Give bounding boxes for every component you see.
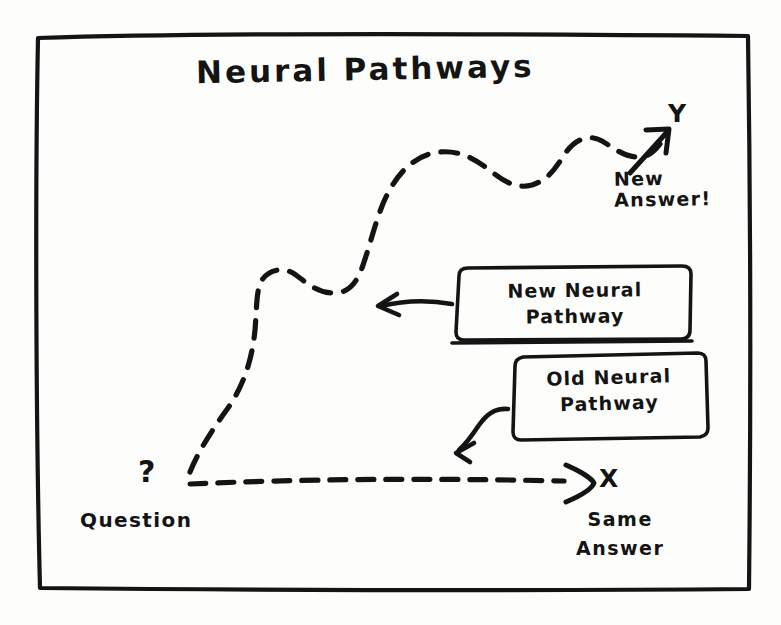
new-pathway-box-underline: [452, 341, 692, 343]
same-answer-line-2: Answer: [576, 534, 664, 563]
old-pathway-line-2: Pathway: [523, 388, 696, 418]
new-pathway-callout-arrow: [381, 301, 452, 306]
old-pathway-line-1: Old Neural: [522, 363, 695, 393]
page-title: Neural Pathways: [196, 49, 535, 90]
old-pathway-callout-arrowhead: [456, 443, 474, 462]
same-answer-caption: Same Answer: [576, 505, 664, 564]
question-label: Question: [80, 509, 192, 531]
new-answer-line-2: Answer!: [614, 188, 711, 211]
old-pathway-arrowhead: [566, 465, 594, 502]
same-answer-line-1: Same: [576, 505, 664, 534]
new-pathway-line-1: New Neural: [468, 277, 682, 305]
y-axis-label: Y: [668, 100, 687, 128]
old-pathway-line: [190, 479, 564, 484]
diagram-canvas: Neural Pathways Y New Answer! X Same Ans…: [0, 0, 781, 625]
new-neural-pathway-label: New Neural Pathway: [468, 277, 683, 331]
old-neural-pathway-label: Old Neural Pathway: [522, 363, 695, 419]
new-answer-caption: New Answer!: [614, 167, 712, 211]
old-pathway-callout-arrow: [459, 409, 508, 450]
new-pathway-line-2: Pathway: [468, 303, 682, 331]
x-axis-label: X: [599, 465, 619, 493]
question-mark: ?: [138, 455, 156, 489]
